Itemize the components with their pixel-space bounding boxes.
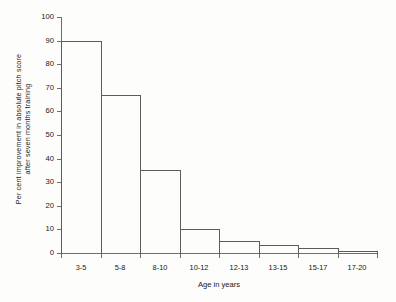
- bar: [219, 241, 260, 254]
- y-axis-tick-label: 80: [46, 59, 54, 68]
- y-axis-tick-label: 70: [46, 83, 54, 92]
- bar: [298, 248, 339, 254]
- x-axis-title: Age in years: [61, 280, 377, 289]
- x-axis-tick-label: 13-15: [269, 263, 288, 272]
- y-axis-title-line-1: Per cent improvement in absolute pitch s…: [14, 54, 23, 204]
- plot-area: 0102030405060708090100 3-55-88-1010-1212…: [61, 17, 377, 253]
- y-axis-title-line-2: after seven months training: [23, 84, 32, 175]
- y-axis-tick-label: 10: [46, 224, 54, 233]
- bar: [259, 245, 299, 254]
- bar: [101, 95, 141, 254]
- y-axis-tick-label: 50: [46, 130, 54, 139]
- x-axis-tick-label: 3-5: [76, 263, 87, 272]
- y-axis-tick-label: 30: [46, 177, 54, 186]
- bar: [338, 251, 378, 254]
- y-axis-title: after seven months training Per cent imp…: [6, 0, 40, 258]
- y-axis-tick: 100: [57, 17, 61, 18]
- y-axis-tick-label: 20: [46, 201, 54, 210]
- chart-figure: after seven months training Per cent imp…: [0, 0, 396, 302]
- y-axis-tick-label: 100: [41, 12, 54, 21]
- y-axis-tick-label: 40: [46, 154, 54, 163]
- x-axis-tick-label: 15-17: [309, 263, 328, 272]
- bar: [61, 41, 102, 254]
- x-axis-tick-label: 12-13: [230, 263, 249, 272]
- x-axis-tick-label: 5-8: [115, 263, 126, 272]
- x-axis-tick-label: 10-12: [190, 263, 209, 272]
- x-axis-tick-label: 8-10: [153, 263, 168, 272]
- x-axis-tick-label: 17-20: [348, 263, 367, 272]
- y-axis-tick-label: 60: [46, 106, 54, 115]
- bar: [180, 229, 220, 254]
- y-axis-tick-label: 90: [46, 36, 54, 45]
- bar: [140, 170, 181, 254]
- y-axis-tick-label: 0: [50, 248, 54, 257]
